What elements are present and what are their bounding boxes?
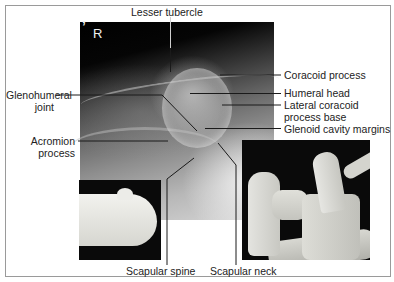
label-line: Glenohumeral (6, 89, 54, 101)
label-line: joint (6, 101, 54, 113)
label-line: Lateral coracoid (284, 99, 359, 111)
label-lesser-tubercle: Lesser tubercle (131, 6, 203, 18)
humerus-bone-shape (79, 194, 157, 246)
humeral-head-shadow (162, 68, 232, 148)
coracoid-tip-shape (341, 149, 370, 181)
label-line: process base (284, 111, 359, 123)
label-acromion-process: Acromion process (6, 135, 75, 159)
label-glenoid-cavity-margins: Glenoid cavity margins (284, 123, 390, 135)
label-scapular-neck: Scapular neck (210, 265, 277, 277)
label-line: process (6, 147, 75, 159)
label-lateral-coracoid-process-base: Lateral coracoid process base (284, 99, 359, 123)
label-glenohumeral-joint: Glenohumeral joint (6, 89, 54, 113)
corner-mark: ’ (82, 18, 86, 34)
tubercle-shape (117, 188, 133, 200)
label-scapular-spine: Scapular spine (126, 265, 195, 277)
label-humeral-head: Humeral head (284, 87, 350, 99)
side-marker: R (93, 26, 102, 41)
inset-shoulder-specimen (242, 140, 370, 260)
inset-proximal-humerus (79, 180, 161, 260)
label-line: Acromion (6, 135, 75, 147)
label-coracoid-process: Coracoid process (284, 69, 366, 81)
